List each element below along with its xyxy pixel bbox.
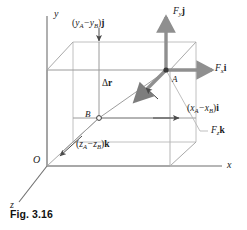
force-z-pointer-arrow [146,88,158,99]
x-axis-label: x [227,160,231,170]
y-component-first-subscript: A [79,22,83,29]
y-axis-label: y [54,9,58,19]
origin-label: O [33,155,40,165]
force-z-unit-vector: k [219,125,224,135]
box-depth-edge-top-left [47,42,73,70]
z-component-label: (zA−zB)k [76,140,109,150]
z-component-second-subscript: B [97,143,101,150]
y-component-label: (yA−yB)j [72,19,104,29]
point-a-marker [163,67,168,72]
box-depth-edge-top-right [170,42,196,70]
force-z-label: Fzk [211,126,225,136]
force-x-label: Fxi [215,64,226,74]
x-component-second-subscript: B [209,107,213,114]
force-y-component-symbol: F [173,6,179,16]
box-back-edges [73,42,196,142]
figure-3-16: y x z O A B (yA−yB)j (xA−xB)i (zA−zB)k Δ… [0,0,247,230]
box-depth-edge-bottom-right [170,142,196,166]
z-component-unit-vector: k [104,139,109,149]
force-x-component-symbol: F [215,63,221,73]
force-x-unit-vector: i [224,63,227,73]
z-axis-line [19,166,47,202]
point-a-label: A [172,75,178,84]
force-z-vector [135,70,166,101]
figure-diagram [0,0,247,230]
point-b-label: B [85,110,91,119]
force-y-subscript: y [179,10,182,17]
delta-r-vector-symbol: r [108,78,112,88]
x-component-unit-vector: i [216,103,219,113]
force-y-unit-vector: j [182,6,185,16]
figure-caption: Fig. 3.16 [10,208,53,220]
box-interior-construction-lines [73,42,196,142]
delta-r-label: Δr [102,79,112,89]
force-z-component-symbol: F [211,125,217,135]
x-component-label: (xA−xB)i [187,104,219,114]
point-b-marker [97,116,102,121]
z-component-first-subscript: A [83,143,87,150]
force-x-subscript: x [221,67,224,74]
y-component-second-subscript: B [94,22,98,29]
y-component-unit-vector: j [101,18,104,28]
x-component-first-subscript: A [194,107,198,114]
force-y-label: Fyj [173,7,185,17]
